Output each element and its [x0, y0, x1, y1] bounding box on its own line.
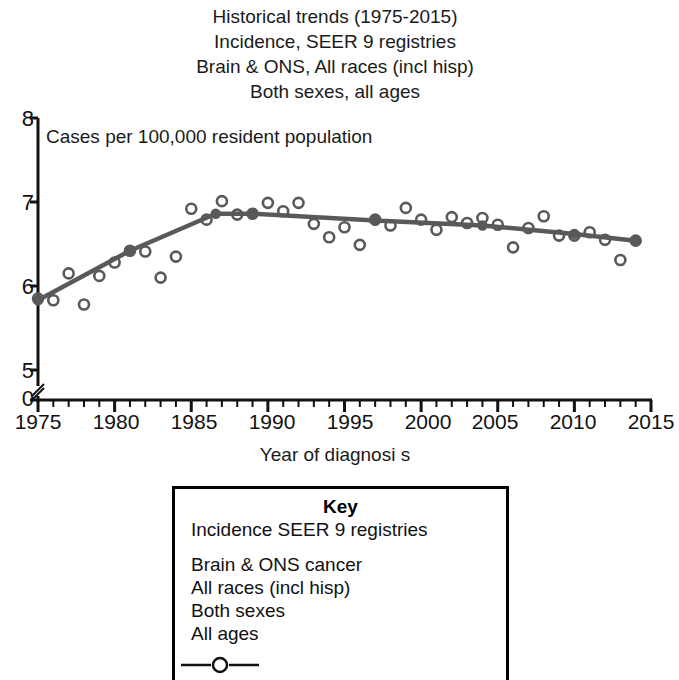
- joinpoint-marker: [212, 210, 220, 218]
- data-point-marker: [447, 212, 457, 222]
- data-point-marker: [64, 268, 74, 278]
- data-point-marker: [294, 198, 304, 208]
- data-point-marker: [340, 222, 350, 232]
- data-point-marker: [615, 255, 625, 265]
- data-point-marker: [140, 247, 150, 257]
- joinpoint-trend-line: [38, 214, 636, 301]
- key-symbol-row: [175, 655, 506, 675]
- data-point-marker: [508, 242, 518, 252]
- data-point-marker: [171, 252, 181, 262]
- data-point-marker: [539, 211, 549, 221]
- key-line-ages: All ages: [191, 622, 506, 645]
- key-line-races: All races (incl hisp): [191, 576, 506, 599]
- key-title: Key: [175, 496, 506, 518]
- data-point-marker: [217, 196, 227, 206]
- data-point-marker: [79, 299, 89, 309]
- joinpoint-markers: [34, 210, 640, 305]
- key-line-cancer-site: Brain & ONS cancer: [191, 553, 506, 576]
- data-point-marker: [156, 273, 166, 283]
- x-axis-title: Year of diagnosi s: [0, 444, 670, 466]
- data-point-marker: [263, 198, 273, 208]
- key-spacer: [175, 541, 506, 553]
- data-point-marker: [309, 219, 319, 229]
- key-line-registries: Incidence SEER 9 registries: [191, 518, 506, 541]
- key-line-sexes: Both sexes: [191, 599, 506, 622]
- key-box: Key Incidence SEER 9 registries Brain & …: [172, 486, 509, 680]
- x-axis-ticks: [38, 400, 651, 412]
- data-point-marker: [355, 240, 365, 250]
- key-line-marker-icon: [175, 655, 265, 675]
- data-point-marker: [324, 232, 334, 242]
- data-point-marker: [94, 271, 104, 281]
- data-point-marker: [48, 295, 58, 305]
- data-point-marker: [431, 225, 441, 235]
- data-point-marker: [401, 203, 411, 213]
- plot-area: [0, 0, 670, 440]
- data-point-markers: [33, 196, 641, 309]
- data-point-marker: [186, 204, 196, 214]
